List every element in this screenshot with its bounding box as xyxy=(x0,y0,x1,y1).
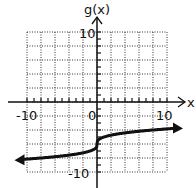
y-tick-label-min: -10 xyxy=(68,166,89,181)
graph: g(x) x -10 0 10 10 -10 xyxy=(0,0,196,188)
y-tick-label-max: 10 xyxy=(79,26,96,41)
y-axis-label: g(x) xyxy=(84,2,110,17)
x-tick-label-min: -10 xyxy=(16,108,37,123)
x-tick-label-max: 10 xyxy=(156,108,173,123)
curve-right-arrow-icon xyxy=(173,122,183,133)
x-axis-label: x xyxy=(187,95,195,110)
axes xyxy=(8,17,185,188)
curve-left-arrow-icon xyxy=(15,154,25,165)
origin-label: 0 xyxy=(88,108,96,123)
